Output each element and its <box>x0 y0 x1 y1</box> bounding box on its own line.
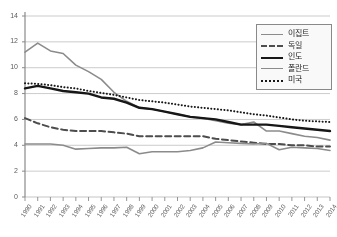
legend-item-label: 이집트 <box>288 29 309 38</box>
legend-item-label: 인도 <box>288 52 302 61</box>
legend-item-label: 폴란드 <box>288 64 309 73</box>
legend-line-swatch-icon <box>261 75 283 84</box>
legend-item-label: 미국 <box>288 75 302 84</box>
legend-item-0[interactable]: 이집트 <box>261 28 326 40</box>
y-axis-tick-label: 4 <box>2 141 18 148</box>
chart-legend: 이집트독일인도폴란드미국 <box>256 24 332 90</box>
series-line-2 <box>25 86 330 131</box>
legend-item-2[interactable]: 인도 <box>261 51 326 63</box>
y-axis-tick-label: 10 <box>2 63 18 70</box>
y-axis-tick-label: 14 <box>2 12 18 19</box>
legend-item-4[interactable]: 미국 <box>261 74 326 86</box>
line-chart: 02468101214 1990199119921993199419951996… <box>0 0 337 237</box>
legend-item-3[interactable]: 폴란드 <box>261 63 326 75</box>
legend-line-swatch-icon <box>261 41 283 50</box>
legend-item-label: 독일 <box>288 41 302 50</box>
legend-line-swatch-icon <box>261 64 283 73</box>
y-axis-tick-label: 12 <box>2 37 18 44</box>
y-axis-tick-label: 8 <box>2 89 18 96</box>
y-axis-tick-label: 2 <box>2 167 18 174</box>
legend-item-1[interactable]: 독일 <box>261 40 326 52</box>
legend-line-swatch-icon <box>261 29 283 38</box>
legend-line-swatch-icon <box>261 52 283 61</box>
y-axis-tick-label: 0 <box>2 193 18 200</box>
y-axis-tick-label: 6 <box>2 115 18 122</box>
